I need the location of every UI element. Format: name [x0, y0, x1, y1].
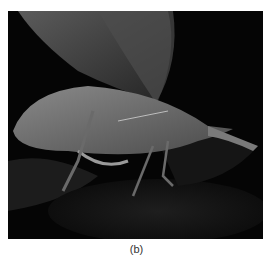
figure-caption: (b) [0, 243, 273, 255]
katydid-photo [8, 11, 263, 239]
photo-illustration [8, 11, 263, 239]
